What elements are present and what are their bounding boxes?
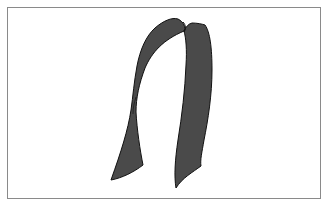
- strap-left-strand: [111, 18, 185, 180]
- figure-canvas: [0, 0, 328, 205]
- strap-right-strand: [175, 23, 212, 188]
- strap-illustration: [0, 0, 328, 205]
